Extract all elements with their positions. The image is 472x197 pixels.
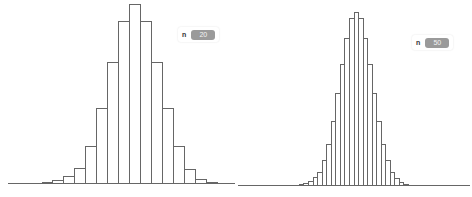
- n-control[interactable]: n 20: [178, 27, 219, 42]
- histogram-panel-n20: n 20: [0, 0, 236, 197]
- histogram-bar: [207, 183, 218, 184]
- histogram-bar: [359, 19, 364, 186]
- n-control[interactable]: n 50: [412, 35, 453, 50]
- histogram-bar: [174, 147, 185, 184]
- histogram-bar: [43, 183, 53, 184]
- histogram-panel-n50: n 50: [236, 0, 472, 197]
- histogram-bar: [327, 145, 332, 186]
- histogram-bar: [332, 122, 336, 186]
- histogram-bar: [400, 183, 404, 186]
- histogram-bar: [97, 109, 108, 184]
- histogram-bar: [300, 185, 304, 186]
- histogram-bar: [152, 63, 163, 184]
- histogram-bar: [130, 5, 141, 184]
- histogram-bar: [304, 184, 309, 186]
- n-value-input[interactable]: 50: [425, 38, 449, 48]
- histogram-bar: [373, 94, 377, 186]
- histogram-bar: [345, 39, 350, 186]
- histogram-bar: [364, 39, 368, 186]
- n-value-input[interactable]: 20: [191, 30, 215, 40]
- histogram-bar: [395, 179, 400, 186]
- histogram-bar: [368, 65, 373, 186]
- histogram-bar: [53, 181, 64, 184]
- histogram-bar: [108, 63, 119, 184]
- n-label: n: [182, 31, 186, 38]
- histogram-bar: [86, 147, 97, 184]
- histogram-bar: [141, 22, 152, 184]
- histogram-bar: [336, 94, 341, 186]
- histogram-bar: [404, 185, 409, 186]
- histogram-bar: [196, 180, 207, 184]
- histogram-bar: [119, 22, 130, 184]
- histogram-bar: [355, 13, 359, 186]
- histogram-bar: [377, 122, 382, 186]
- histogram-bar: [163, 109, 174, 184]
- histogram-bar: [75, 169, 86, 184]
- histogram-bar: [318, 173, 323, 186]
- histogram-bar: [391, 173, 395, 186]
- histogram-bar: [64, 177, 75, 184]
- histogram-bar: [350, 19, 355, 186]
- histogram-bar: [386, 161, 391, 186]
- histogram-bar: [323, 161, 327, 186]
- histogram-n50: [236, 0, 472, 197]
- histogram-bar: [341, 65, 345, 186]
- histogram-bar: [382, 145, 386, 186]
- histogram-bar: [314, 178, 318, 186]
- histogram-bar: [185, 170, 196, 184]
- n-label: n: [416, 39, 420, 46]
- histogram-bar: [309, 182, 314, 186]
